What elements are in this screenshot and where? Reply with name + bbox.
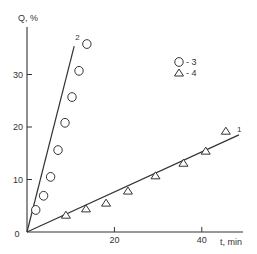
legend-label: - 4 [186,68,197,78]
chart: 10203020400Q, %t, min 12 - 3- 4 [0,0,257,254]
legend-triangle-icon [175,69,184,76]
y-tick-label: 30 [13,70,23,80]
circle-marker-icon [39,191,47,200]
fit-line-2 [27,46,74,232]
fit-lines: 12 [27,33,242,232]
x-axis-label: t, min [220,237,242,247]
circle-marker-icon [46,172,54,181]
origin-label: 0 [14,229,19,239]
circle-marker-icon [61,118,69,127]
circle-marker-icon [75,66,83,75]
circle-marker-icon [32,206,40,215]
triangle-marker-icon [151,172,160,179]
y-tick-label: 20 [13,122,23,132]
y-axis-label: Q, % [18,13,38,23]
triangle-marker-icon [221,127,230,134]
triangle-marker-icon [102,199,111,206]
legend: - 3- 4 [175,57,197,78]
legend-circle-icon [175,58,183,67]
curve-label-2: 2 [75,33,80,42]
axes: 10203020400Q, %t, min [13,13,243,247]
y-tick-label: 10 [13,175,23,185]
data-points [32,40,231,219]
circle-marker-icon [68,93,76,102]
x-tick-label: 40 [197,235,207,245]
x-tick-label: 20 [109,235,119,245]
curve-label-1: 1 [237,125,242,134]
triangle-marker-icon [179,159,188,166]
circle-marker-icon [83,40,91,49]
circle-marker-icon [54,146,62,155]
triangle-marker-icon [123,187,132,194]
legend-label: - 3 [186,57,197,67]
